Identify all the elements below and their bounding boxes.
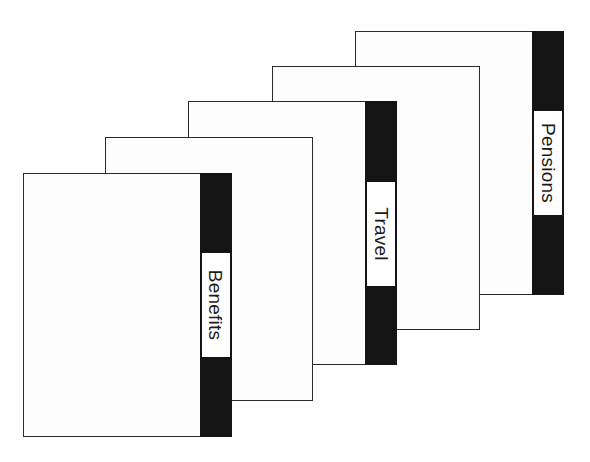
tab-label-box: Benefits (202, 253, 230, 357)
folder-tab-benefits[interactable]: Benefits (200, 173, 232, 437)
folder-card-benefits: Benefits (23, 173, 231, 437)
tab-label-pensions: Pensions (537, 123, 559, 203)
tab-label-benefits: Benefits (205, 269, 227, 339)
folder-tab-pensions[interactable]: Pensions (532, 31, 564, 295)
folder-tab-travel[interactable]: Travel (365, 101, 397, 365)
tab-label-box: Travel (367, 182, 395, 286)
tab-label-travel: Travel (370, 207, 392, 260)
tab-label-box: Pensions (534, 111, 562, 215)
